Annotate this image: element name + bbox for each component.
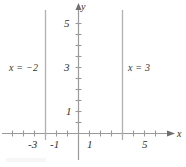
x-axis-arrowhead <box>167 131 175 137</box>
y-tick-label-3: 3 <box>64 62 70 73</box>
x-tick-label-5: 5 <box>142 139 148 150</box>
y-axis-label: y <box>81 2 85 12</box>
label-x-equals-3: x = 3 <box>128 63 150 73</box>
scan-artifact <box>6 158 46 162</box>
label-x-equals-neg2: x = −2 <box>9 63 38 73</box>
y-tick-label-1: 1 <box>66 106 72 117</box>
y-tick-label-5: 5 <box>64 18 70 29</box>
x-tick-label-neg1: -1 <box>50 139 59 150</box>
x-axis-label: x <box>177 129 181 139</box>
graph-figure: y x 5 3 1 -3 -1 1 5 x = −2 x = 3 <box>0 0 186 167</box>
x-tick-label-neg3: -3 <box>28 139 37 150</box>
x-tick-label-1: 1 <box>87 139 93 150</box>
